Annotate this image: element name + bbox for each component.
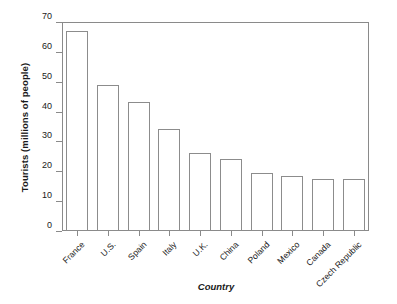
x-tick-mark — [108, 231, 109, 236]
x-tick-mark — [262, 231, 263, 236]
y-tick-label: 70 — [18, 10, 52, 22]
y-tick-mark — [56, 231, 62, 232]
bar — [158, 129, 180, 231]
bar — [343, 179, 365, 231]
y-tick-label: 50 — [18, 70, 52, 82]
x-tick-mark — [323, 231, 324, 236]
bar — [66, 31, 88, 231]
y-tick-label: 60 — [18, 40, 52, 52]
y-tick-label: 20 — [18, 159, 52, 171]
bar — [128, 102, 150, 231]
y-tick-label: 30 — [18, 129, 52, 141]
y-axis: 010203040506070 — [0, 0, 62, 304]
y-tick-label: 40 — [18, 100, 52, 112]
x-tick-mark — [292, 231, 293, 236]
y-tick-label: 0 — [18, 219, 52, 231]
x-tick-mark — [77, 231, 78, 236]
x-tick-mark — [200, 231, 201, 236]
x-tick-mark — [354, 231, 355, 236]
bar — [220, 159, 242, 231]
bar — [97, 85, 119, 231]
x-tick-mark — [139, 231, 140, 236]
y-tick-label: 10 — [18, 189, 52, 201]
x-tick-mark — [169, 231, 170, 236]
bar-chart-figure: Tourists (millions of people) 0102030405… — [0, 0, 397, 304]
bar — [312, 179, 334, 231]
x-tick-mark — [231, 231, 232, 236]
bar — [281, 176, 303, 231]
bar — [251, 173, 273, 231]
bar — [189, 153, 211, 231]
